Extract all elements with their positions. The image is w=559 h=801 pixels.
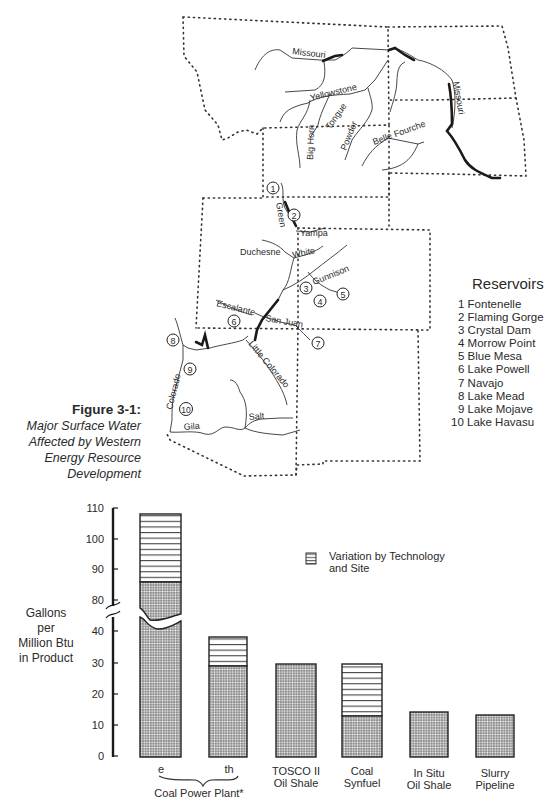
tick-label: 100 bbox=[86, 533, 104, 545]
tick-label: 20 bbox=[92, 688, 104, 700]
river-label-big-horn: Big Horn bbox=[305, 125, 316, 160]
figure-title-line: Energy Resource bbox=[0, 450, 141, 466]
river-label-colorado: Colorado bbox=[164, 373, 183, 411]
group-bracket bbox=[159, 776, 238, 786]
group-label-coal-power-plant: Coal Power Plant* bbox=[154, 787, 244, 799]
svg-text:1: 1 bbox=[270, 184, 275, 194]
y-axis bbox=[106, 508, 120, 757]
river-labels: Missouri Missouri Yellowstone Big Horn T… bbox=[164, 46, 466, 432]
tick-label: 30 bbox=[92, 657, 104, 669]
reservoir-marker-4: 4 bbox=[314, 295, 326, 307]
reservoir-item: 7 Navajo bbox=[451, 377, 544, 390]
reservoir-item: 4 Morrow Point bbox=[451, 337, 544, 350]
river-label-duchesne: Duchesne bbox=[240, 247, 281, 257]
category-label-line: Oil Shale bbox=[274, 777, 319, 789]
reservoir-item: 6 Lake Powell bbox=[451, 363, 544, 376]
river-label-missouri-east: Missouri bbox=[451, 81, 467, 116]
river-label-white: White bbox=[291, 245, 316, 260]
river-label-little-colorado: Little Colorado bbox=[246, 339, 291, 390]
category-label-line: TOSCO II bbox=[272, 765, 320, 777]
tick-label: 10 bbox=[92, 719, 104, 731]
reservoir-item: 3 Crystal Dam bbox=[451, 324, 544, 337]
rivers bbox=[170, 48, 455, 435]
tick-label: 0 bbox=[98, 750, 104, 762]
bar-in-situ-oil-shale bbox=[410, 712, 448, 757]
reservoir-marker-6: 6 bbox=[228, 315, 240, 327]
legend-label-line: and Site bbox=[329, 562, 369, 574]
svg-text:5: 5 bbox=[340, 290, 345, 300]
reservoir-item: 1 Fontenelle bbox=[451, 298, 544, 311]
reservoir-marker-7: 7 bbox=[312, 337, 324, 349]
svg-text:3: 3 bbox=[303, 284, 308, 294]
svg-text:9: 9 bbox=[187, 365, 192, 375]
svg-text:8: 8 bbox=[170, 336, 175, 346]
figure-number: Figure 3-1: bbox=[0, 402, 141, 418]
reservoir-marker-9: 9 bbox=[184, 363, 196, 375]
bar-coal-power-th bbox=[209, 637, 247, 757]
figure-title-line: Development bbox=[0, 466, 141, 482]
legend-label-line: Variation by Technology bbox=[329, 550, 445, 562]
reservoir-marker-10: 10 bbox=[180, 403, 193, 416]
river-label-powder: Powder bbox=[339, 120, 360, 152]
reservoir-marker-8: 8 bbox=[167, 334, 179, 346]
river-label-yampa: Yampa bbox=[300, 228, 328, 238]
tick-label: 110 bbox=[86, 502, 104, 514]
bar-coal-synfuel bbox=[342, 664, 382, 757]
tick-label: 80 bbox=[92, 594, 104, 606]
svg-text:7: 7 bbox=[315, 339, 320, 349]
legend-hatch-swatch bbox=[306, 553, 316, 564]
river-label-belle-fourche: Belle Fourche bbox=[371, 118, 427, 146]
reservoir-item: 5 Blue Mesa bbox=[451, 350, 544, 363]
figure-caption: Figure 3-1: Major Surface Water Affected… bbox=[0, 402, 141, 482]
category-label-line: Oil Shale bbox=[407, 779, 452, 791]
bar-tosco-ii-oil-shale bbox=[276, 664, 316, 757]
category-label-line: Synfuel bbox=[344, 777, 381, 789]
reservoir-marker-5: 5 bbox=[337, 288, 349, 300]
river-label-san-juan: San Juan bbox=[265, 313, 304, 329]
water-use-bar-chart: 110 100 90 80 40 30 20 10 0 Variation by… bbox=[0, 490, 559, 801]
reservoir-marker-1: 1 bbox=[267, 182, 279, 194]
svg-text:2: 2 bbox=[291, 211, 296, 221]
reservoirs-title: Reservoirs bbox=[472, 275, 544, 292]
reservoir-markers: 1 2 3 4 5 6 7 8 9 10 bbox=[167, 182, 349, 416]
river-label-tongue: Tongue bbox=[323, 101, 348, 131]
tick-label: 90 bbox=[92, 563, 104, 575]
category-label-line: Coal bbox=[351, 765, 374, 777]
category-label-line: Slurry bbox=[481, 767, 510, 779]
sub-label-e: e bbox=[158, 763, 164, 775]
river-label-yellowstone: Yellowstone bbox=[309, 82, 358, 103]
river-label-escalante: Escalante bbox=[216, 298, 257, 317]
reservoir-marker-3: 3 bbox=[300, 282, 312, 294]
svg-text:4: 4 bbox=[317, 297, 322, 307]
river-label-salt: Salt bbox=[248, 411, 265, 422]
category-label-line: In Situ bbox=[413, 767, 444, 779]
figure-title-line: Affected by Western bbox=[0, 434, 141, 450]
reservoir-marker-2: 2 bbox=[288, 209, 300, 221]
figure-title-line: Major Surface Water bbox=[0, 418, 141, 434]
bar-coal-power-e bbox=[140, 514, 181, 757]
chart-legend: Variation by Technology and Site bbox=[306, 550, 445, 574]
bar-slurry-pipeline bbox=[476, 715, 514, 757]
svg-text:6: 6 bbox=[231, 317, 236, 327]
sub-label-th: th bbox=[224, 763, 233, 775]
reservoirs-legend: Reservoirs bbox=[470, 275, 544, 298]
tick-label: 40 bbox=[92, 625, 104, 637]
reservoir-item: 9 Lake Mojave bbox=[451, 403, 544, 416]
svg-text:10: 10 bbox=[181, 405, 191, 415]
river-label-gunnison: Gunnison bbox=[311, 263, 350, 287]
y-axis-tick-labels: 110 100 90 80 40 30 20 10 0 bbox=[86, 502, 104, 762]
reservoir-item: 10 Lake Havasu bbox=[451, 416, 544, 429]
reservoir-item: 8 Lake Mead bbox=[451, 390, 544, 403]
reservoir-item: 2 Flaming Gorge bbox=[451, 311, 544, 324]
river-label-gila: Gila bbox=[183, 421, 200, 432]
category-label-line: Pipeline bbox=[475, 779, 514, 791]
reservoirs-list: 1 Fontenelle 2 Flaming Gorge 3 Crystal D… bbox=[451, 298, 544, 429]
